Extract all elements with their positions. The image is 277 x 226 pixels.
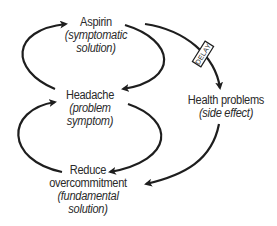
causal-loop-diagram: DELAY Aspirin (symptomatic solution) Hea… <box>0 0 277 226</box>
arrow-health-problems-to-reduce <box>146 124 219 184</box>
node-reduce-overcommitment: Reduce overcommitment (fundamental solut… <box>42 164 134 216</box>
node-health-problems-subtitle: (side effect) <box>182 107 270 120</box>
node-reduce-subtitle-2: solution) <box>42 203 134 216</box>
node-aspirin-subtitle-2: solution) <box>61 42 131 55</box>
node-aspirin: Aspirin (symptomatic solution) <box>61 16 131 55</box>
node-headache-subtitle-2: symptom) <box>55 115 125 128</box>
arrow-aspirin-to-health-problems <box>145 24 220 88</box>
node-health-problems: Health problems (side effect) <box>182 94 270 120</box>
node-headache: Headache (problem symptom) <box>55 89 125 128</box>
arrow-headache-to-aspirin <box>23 24 66 89</box>
